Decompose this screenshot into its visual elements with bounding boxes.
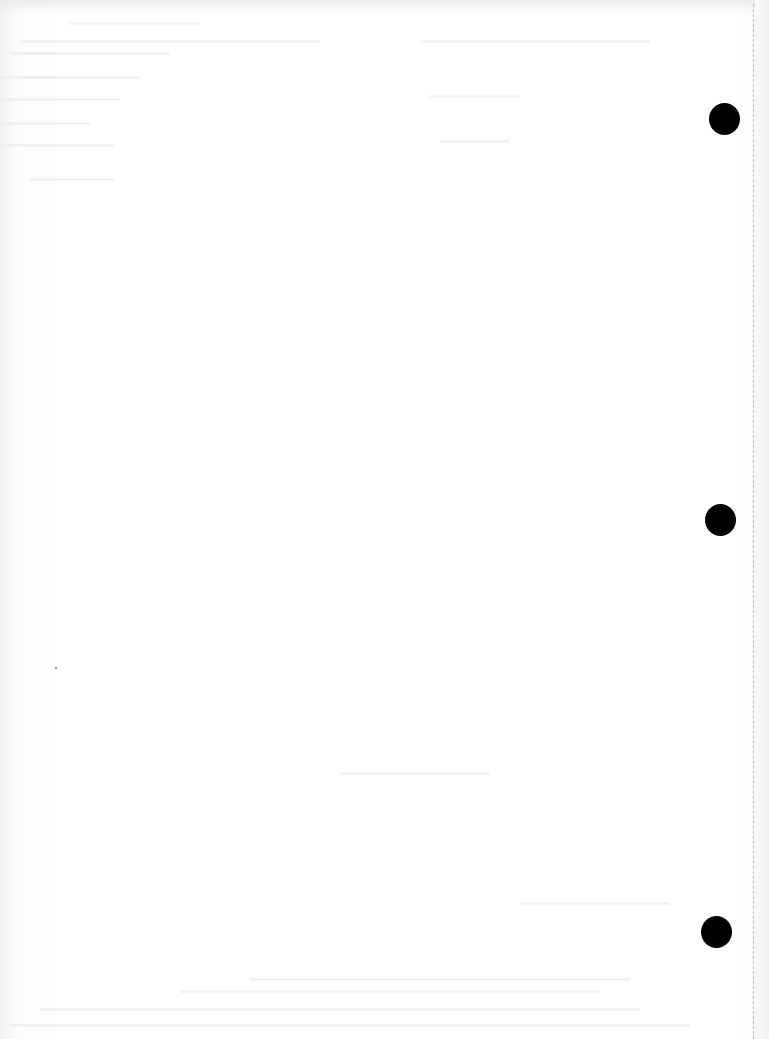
bleed-through-mark <box>0 144 115 147</box>
bleed-through-mark <box>420 40 650 43</box>
bleed-through-mark <box>520 902 670 905</box>
scan-speck <box>55 667 57 669</box>
bleed-through-mark <box>0 76 140 79</box>
bleed-through-mark <box>440 140 510 143</box>
bleed-through-mark <box>30 178 115 181</box>
bleed-through-mark <box>340 772 490 775</box>
punch-hole-middle <box>705 504 736 536</box>
bleed-through-mark <box>430 95 520 98</box>
bleed-through-mark <box>70 22 200 25</box>
scanned-page <box>0 0 769 1039</box>
bleed-through-mark <box>10 1024 690 1027</box>
punch-hole-top <box>709 103 740 135</box>
page-edge-strip <box>755 0 769 1039</box>
perforation-line <box>753 4 754 1039</box>
bleed-through-mark <box>0 98 120 101</box>
bleed-through-mark <box>40 1008 640 1011</box>
bleed-through-mark <box>250 978 630 981</box>
bleed-through-mark <box>180 990 600 993</box>
bleed-through-mark <box>20 40 320 43</box>
bleed-through-mark <box>0 122 90 125</box>
scan-top-shadow <box>0 0 769 14</box>
bleed-through-mark <box>10 52 170 55</box>
punch-hole-bottom <box>701 916 732 948</box>
